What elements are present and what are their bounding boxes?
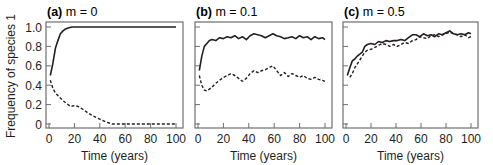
figure: Frequency of species 1 (a) m = 000.20.40… [0, 0, 493, 165]
series-solid-line [347, 31, 471, 76]
x-tick-label: 0 [46, 132, 53, 146]
x-tick-label: 100 [315, 132, 335, 146]
series-dashed-line [350, 32, 471, 78]
x-tick-label: 0 [195, 132, 202, 146]
series-dashed-line [199, 66, 325, 91]
panel-title: (a) m = 0 [47, 5, 97, 19]
y-tick-label: 1.0 [25, 21, 42, 35]
plot-frame [343, 22, 478, 128]
y-tick-label: 0.8 [25, 40, 42, 54]
x-tick-label: 0 [343, 132, 350, 146]
x-tick-label: 40 [93, 132, 107, 146]
panel-b: (b) m = 0.1020406080100Time (years) [195, 5, 336, 163]
y-tick-label: 0.4 [25, 79, 42, 93]
x-axis-label: Time (years) [230, 149, 297, 163]
panel-title: (c) m = 0.5 [344, 5, 405, 19]
y-axis-label: Frequency of species 1 [4, 14, 18, 138]
x-tick-label: 60 [268, 132, 282, 146]
x-tick-label: 60 [119, 132, 133, 146]
panel-c: (c) m = 0.5020406080100Time (years) [343, 5, 482, 163]
y-tick-label: 0 [35, 118, 42, 132]
series-solid-line [50, 27, 176, 76]
x-axis-label: Time (years) [81, 149, 148, 163]
x-tick-label: 100 [461, 132, 481, 146]
panel-title: (b) m = 0.1 [196, 5, 258, 19]
x-axis-label: Time (years) [377, 149, 444, 163]
plot-frame [46, 22, 183, 128]
series-dashed-line [50, 80, 176, 124]
y-tick-label: 0.2 [25, 98, 42, 112]
x-tick-label: 20 [68, 132, 82, 146]
x-tick-label: 100 [166, 132, 186, 146]
x-tick-label: 80 [439, 132, 453, 146]
x-tick-label: 20 [217, 132, 231, 146]
x-tick-label: 40 [389, 132, 403, 146]
x-tick-label: 40 [242, 132, 256, 146]
x-tick-label: 60 [414, 132, 428, 146]
y-tick-label: 0.6 [25, 59, 42, 73]
series-solid-line [199, 34, 325, 71]
plot-frame [195, 22, 332, 128]
x-tick-label: 80 [144, 132, 158, 146]
x-tick-label: 80 [293, 132, 307, 146]
panel-a: (a) m = 000.20.40.60.81.0020406080100Tim… [25, 5, 186, 163]
x-tick-label: 20 [364, 132, 378, 146]
